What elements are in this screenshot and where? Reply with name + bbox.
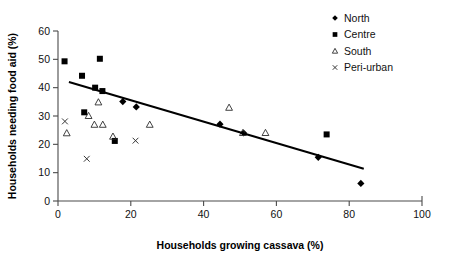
marker-filled-diamond <box>357 180 364 187</box>
marker-open-triangle <box>262 129 269 135</box>
data-series-layer <box>62 56 365 187</box>
marker-filled-diamond <box>133 103 140 110</box>
marker-cross <box>133 138 139 144</box>
x-axis-title: Households growing cassava (%) <box>157 239 324 251</box>
y-axis-title: Households needing food aid (%) <box>6 33 18 199</box>
marker-filled-square <box>79 73 85 79</box>
y-tick-label: 30 <box>38 110 50 122</box>
legend-item-label: South <box>344 45 372 57</box>
x-tick-label: 40 <box>198 208 210 220</box>
y-tick-label: 0 <box>44 195 50 207</box>
marker-filled-square <box>97 56 103 62</box>
scatter-plot: 0102030405060 020406080100 Households gr… <box>0 0 451 265</box>
marker-cross <box>84 156 90 162</box>
marker-filled-square <box>62 58 68 64</box>
x-tick-label: 0 <box>55 208 61 220</box>
legend-item-north: North <box>332 12 370 24</box>
series-south <box>63 99 269 139</box>
y-tick-label: 10 <box>38 166 50 178</box>
marker-filled-square <box>324 131 330 137</box>
y-tick-label: 60 <box>38 25 50 37</box>
marker-cross <box>62 118 68 124</box>
legend-item-label: North <box>344 12 370 24</box>
marker-cross <box>333 65 338 70</box>
legend-item-peri-urban: Peri-urban <box>333 61 393 73</box>
trend-line <box>69 82 364 169</box>
marker-open-triangle <box>95 99 102 105</box>
chart-figure: 0102030405060 020406080100 Households gr… <box>0 0 451 265</box>
marker-filled-square <box>333 32 338 37</box>
marker-open-triangle <box>226 104 233 110</box>
y-tick-label: 50 <box>38 53 50 65</box>
legend-item-south: South <box>332 45 371 57</box>
marker-filled-diamond <box>332 15 338 21</box>
marker-filled-square <box>81 109 87 115</box>
series-centre <box>62 56 330 144</box>
x-tick-label: 20 <box>125 208 137 220</box>
series-north <box>119 98 364 187</box>
marker-open-triangle <box>63 130 70 136</box>
x-tick-label: 60 <box>271 208 283 220</box>
x-axis-ticks: 020406080100 <box>55 201 431 220</box>
marker-open-triangle <box>99 121 106 127</box>
x-tick-label: 100 <box>413 208 431 220</box>
legend-item-label: Peri-urban <box>344 61 393 73</box>
legend-item-label: Centre <box>344 28 376 40</box>
x-tick-label: 80 <box>343 208 355 220</box>
y-tick-label: 40 <box>38 81 50 93</box>
y-tick-label: 20 <box>38 138 50 150</box>
legend-item-centre: Centre <box>333 28 376 40</box>
marker-open-triangle <box>332 48 337 53</box>
y-axis-ticks: 0102030405060 <box>38 25 58 207</box>
marker-open-triangle <box>146 121 153 127</box>
legend: NorthCentreSouthPeri-urban <box>332 12 393 74</box>
marker-open-triangle <box>91 121 98 127</box>
